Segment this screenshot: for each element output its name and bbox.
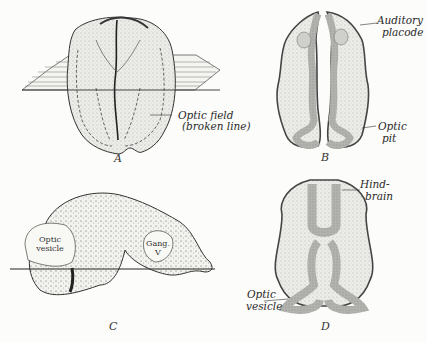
label-optic-field: Optic field	[178, 110, 233, 120]
label-gang-1: Gang.	[146, 240, 170, 248]
panel-d-drawing	[264, 180, 373, 310]
embryo-figure	[0, 0, 427, 342]
panel-letter-b: B	[321, 151, 329, 164]
label-broken-line: (broken line)	[182, 121, 251, 131]
label-brain: brain	[365, 191, 393, 201]
label-optic-vesicle-d-2: vesicle	[246, 301, 282, 311]
panel-letter-d: D	[321, 320, 330, 333]
panel-b-drawing	[277, 12, 377, 147]
label-optic-pit-2: pit	[382, 133, 396, 143]
panel-letter-c: C	[109, 320, 117, 333]
label-auditory: Auditory	[377, 15, 423, 25]
panel-a-drawing	[22, 17, 220, 154]
label-optic-vesicle-d-1: Optic	[247, 289, 276, 299]
panel-letter-a: A	[114, 152, 122, 165]
label-hind: Hind-	[360, 179, 390, 189]
label-gang-2: V	[146, 249, 170, 257]
label-placode: placode	[382, 27, 423, 37]
label-optic-vesicle-c-1: Optic	[30, 236, 70, 244]
label-optic-vesicle-c-2: vesicle	[30, 245, 70, 253]
label-optic-pit-1: Optic	[378, 121, 407, 131]
